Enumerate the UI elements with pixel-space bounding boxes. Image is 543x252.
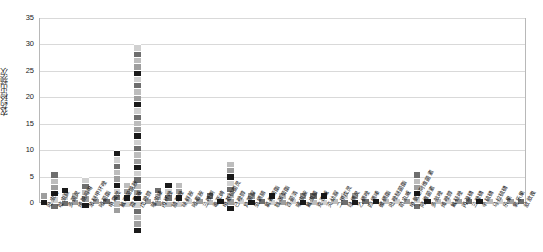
- bar-series: [39, 18, 526, 203]
- y-tick-label: 10: [0, 146, 34, 154]
- y-tick-label: 30: [0, 40, 34, 48]
- bar-chart: 05101520253035 农药检出频次 吡虫啉啶虫脒多菌灵烯酰吗啉苯醚甲环唑…: [0, 0, 543, 252]
- y-tick-label: 35: [0, 14, 34, 22]
- y-tick-label: 0: [0, 199, 34, 207]
- x-axis-labels: 吡虫啉啶虫脒多菌灵烯酰吗啉苯醚甲环唑嘧菌酯甲霜灵氟吡菌酰胺霜霉威戊唑醇噻虫嗪丙环…: [39, 205, 526, 252]
- y-tick-label: 15: [0, 120, 34, 128]
- y-tick-label: 5: [0, 173, 34, 181]
- y-axis-label: 农药检出频次: [0, 68, 13, 116]
- bar: [41, 192, 47, 203]
